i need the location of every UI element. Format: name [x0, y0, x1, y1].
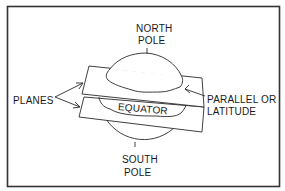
globe-planes-diagram: NORTH POLE PLANES EQUATOR PARALLEL OR LA…	[0, 0, 285, 191]
planes-label: PLANES	[13, 95, 54, 106]
planes-arrow-upper	[55, 83, 83, 97]
parallel-label-line2: LATITUDE	[207, 106, 256, 117]
south-pole-label-line2: POLE	[124, 167, 152, 178]
parallel-label-line1: PARALLEL OR	[207, 94, 276, 105]
north-pole-label-line2: POLE	[138, 35, 166, 46]
planes-arrows	[55, 83, 83, 108]
planes-arrow-lower	[55, 97, 80, 107]
north-pole-label-line1: NORTH	[136, 23, 172, 34]
south-pole-label-line1: SOUTH	[122, 154, 158, 165]
